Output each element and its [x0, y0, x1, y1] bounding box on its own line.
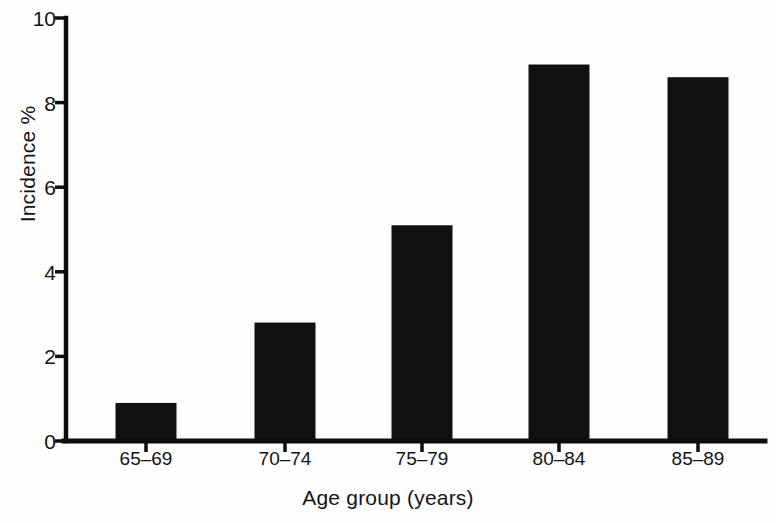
- plot-area: [0, 0, 776, 523]
- x-axis-ticklabels: 65–6970–7475–7980–8485–89: [0, 449, 776, 479]
- x-ticklabel-75–79: 75–79: [352, 449, 492, 470]
- bar-70–74: [255, 323, 316, 441]
- x-ticklabel-85–89: 85–89: [628, 449, 768, 470]
- bar-65–69: [116, 403, 177, 441]
- x-ticklabel-70–74: 70–74: [215, 449, 355, 470]
- bar-75–79: [392, 225, 453, 441]
- bar-85–89: [668, 77, 729, 441]
- bar-chart-figure: Incidence % 0246810 65–6970–7475–7980–84…: [0, 0, 776, 523]
- x-ticklabel-80–84: 80–84: [489, 449, 629, 470]
- bar-80–84: [529, 65, 590, 441]
- x-axis-title: Age group (years): [0, 486, 776, 510]
- x-ticklabel-65–69: 65–69: [76, 449, 216, 470]
- bars-group: [116, 65, 729, 441]
